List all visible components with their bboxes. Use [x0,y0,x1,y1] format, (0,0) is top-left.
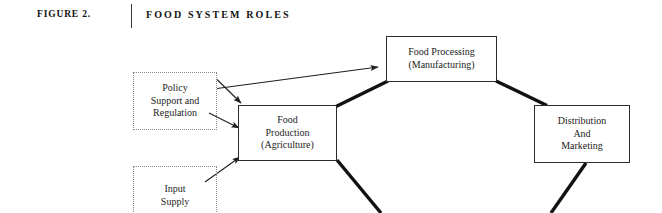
edge-food-processing-to-distribution [496,81,547,106]
edge-food-production-to-food-processing [336,81,388,107]
diagram-canvas: Food Processing (Manufacturing) Food Pro… [0,0,662,213]
node-input-supply-label: Input Supply [158,183,192,209]
node-input-supply[interactable]: Input Supply [133,166,217,213]
edge-food-production-downstream [337,160,381,213]
node-policy-label: Policy Support and Regulation [148,82,203,120]
edge-policy-to-food-production-top [217,80,241,104]
node-distribution-label: Distribution And Marketing [555,115,609,153]
edge-policy-to-food-processing [217,67,378,89]
node-food-processing[interactable]: Food Processing (Manufacturing) [386,36,497,82]
edge-distribution-downstream [551,163,586,213]
figure-root: FIGURE 2. FOOD SYSTEM ROLES [0,0,662,213]
node-food-processing-label: Food Processing (Manufacturing) [405,46,477,72]
node-food-production[interactable]: Food Production (Agriculture) [238,105,337,161]
node-policy-support-and-regulation[interactable]: Policy Support and Regulation [133,72,217,130]
node-distribution[interactable]: Distribution And Marketing [534,105,630,163]
node-food-production-label: Food Production (Agriculture) [258,114,317,152]
